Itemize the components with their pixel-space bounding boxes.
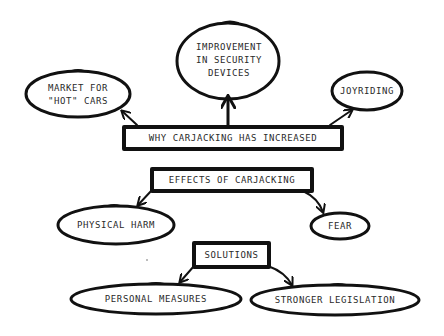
node-improvement-label: Improvement in security devices [183,41,275,80]
node-joyriding-label: Joyriding [334,85,400,98]
node-why-increased-label: Why carjacking has increased [124,132,342,145]
node-fear-label: Fear [312,220,368,233]
node-market-label: Market for "hot" cars [32,82,124,108]
node-stronger-legislation-label: Stronger legislation [252,294,418,307]
node-physical-harm-label: Physical harm [60,219,172,232]
node-solutions-label: Solutions [194,249,269,262]
node-personal-measures-label: Personal measures [72,293,240,306]
node-effects-label: Effects of carjacking [152,174,312,187]
